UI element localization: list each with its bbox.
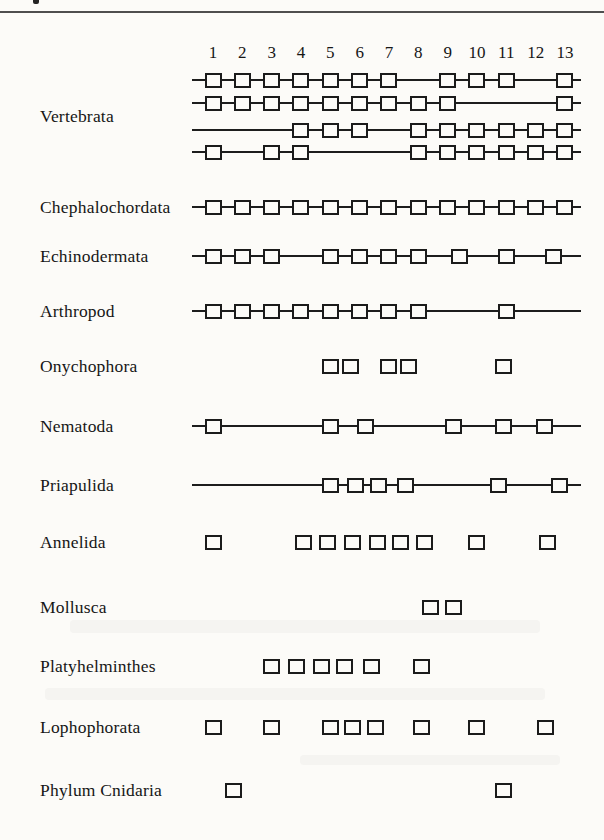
gene-box [205,535,222,550]
gene-box [527,200,544,215]
x-tick-label: 11 [498,44,514,62]
taxon-label: Onychophora [40,356,137,377]
gene-box [234,96,251,111]
gene-box [205,720,222,735]
gene-box [322,123,339,138]
gene-box [380,249,397,264]
gene-box [545,249,562,264]
gene-box [537,720,554,735]
gene-box [357,419,374,434]
gene-box [295,535,312,550]
gene-box [536,419,553,434]
gene-box [392,535,409,550]
taxon-label: Vertebrata [40,106,114,127]
ink-speck [33,0,39,4]
cluster-line [192,151,581,153]
x-tick-label: 3 [267,44,276,62]
gene-box [380,359,397,374]
x-tick-label: 4 [297,44,306,62]
gene-box [410,145,427,160]
gene-box [369,535,386,550]
gene-box [380,96,397,111]
gene-box [292,123,309,138]
gene-box [263,145,280,160]
gene-box [205,145,222,160]
gene-box [498,200,515,215]
gene-box [322,720,339,735]
gene-box [445,419,462,434]
gene-box [292,73,309,88]
gene-box [439,73,456,88]
gene-box [410,96,427,111]
gene-box [351,123,368,138]
gene-box [556,73,573,88]
gene-box [451,249,468,264]
gene-box [439,123,456,138]
gene-box [234,249,251,264]
cluster-line [192,425,581,427]
gene-box [498,249,515,264]
gene-box [351,96,368,111]
gene-box [445,600,462,615]
taxon-label: Platyhelminthes [40,656,156,677]
gene-box [292,145,309,160]
x-tick-label: 7 [385,44,394,62]
gene-box [468,535,485,550]
gene-box [322,359,339,374]
gene-box [263,249,280,264]
gene-box [397,478,414,493]
x-tick-label: 10 [468,44,485,62]
gene-box [413,720,430,735]
gene-box [556,123,573,138]
x-tick-label: 13 [556,44,573,62]
gene-box [380,200,397,215]
gene-box [400,359,417,374]
gene-box [367,720,384,735]
gene-box [319,535,336,550]
gene-box [263,720,280,735]
gene-box [205,200,222,215]
taxon-label: Phylum Cnidaria [40,780,162,801]
scan-smudge [70,620,540,633]
gene-box [288,659,305,674]
gene-box [380,73,397,88]
gene-box [322,304,339,319]
gene-box [495,783,512,798]
figure: 12345678910111213 VertebrataChephalochor… [0,0,604,840]
x-tick-label: 5 [326,44,335,62]
gene-box [498,73,515,88]
gene-box [468,200,485,215]
gene-box [205,249,222,264]
gene-box [468,145,485,160]
gene-box [422,600,439,615]
taxon-label: Echinodermata [40,246,149,267]
taxon-label: Lophophorata [40,717,141,738]
gene-box [342,359,359,374]
gene-box [344,535,361,550]
gene-box [413,659,430,674]
gene-box [416,535,433,550]
gene-box [498,304,515,319]
gene-box [370,478,387,493]
gene-box [205,96,222,111]
gene-box [263,200,280,215]
gene-box [313,659,330,674]
gene-box [410,123,427,138]
gene-box [439,96,456,111]
gene-box [468,720,485,735]
gene-box [205,419,222,434]
gene-box [495,359,512,374]
gene-box [351,200,368,215]
scan-smudge [300,755,560,765]
taxon-label: Arthropod [40,301,115,322]
gene-box [292,304,309,319]
cluster-line [192,129,581,131]
gene-box [322,478,339,493]
gene-box [322,73,339,88]
taxon-label: Mollusca [40,597,107,618]
gene-box [225,783,242,798]
gene-box [263,96,280,111]
gene-box [539,535,556,550]
gene-box [234,304,251,319]
x-tick-label: 6 [355,44,364,62]
